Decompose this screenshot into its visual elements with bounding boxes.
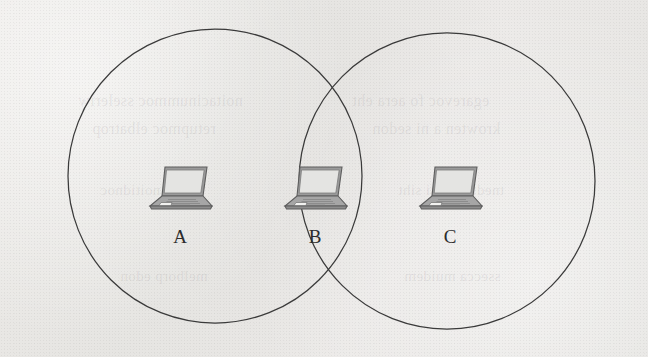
node-label-c: C [435,227,465,246]
laptop-icon [279,158,351,214]
laptop-icon-c [414,158,486,214]
laptop-icon [144,158,216,214]
node-label-a: A [165,227,195,246]
node-label-b: B [300,227,330,246]
laptop-icon-b [279,158,351,214]
figure-page: noitacinummoc sseleriw egarevoc fo aera … [0,0,648,357]
laptop-icon [414,158,486,214]
laptop-icon-a [144,158,216,214]
